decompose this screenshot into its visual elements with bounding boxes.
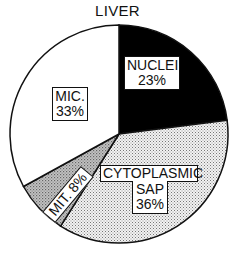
label-cyto-line1: CYTOPLASMIC: [100, 165, 198, 182]
mic-name: MIC.: [55, 89, 85, 104]
cyto-pct: 36%: [135, 197, 165, 212]
nuclei-pct: 23%: [127, 73, 177, 88]
label-cyto-line2: SAP 36%: [132, 181, 168, 214]
label-mic: MIC. 33%: [52, 87, 88, 121]
pie-chart: [0, 0, 235, 254]
label-nuclei: NUCLEI 23%: [124, 56, 180, 90]
cyto-name-2: SAP: [135, 182, 165, 197]
mic-pct: 33%: [55, 104, 85, 119]
nuclei-name: NUCLEI: [127, 58, 177, 73]
